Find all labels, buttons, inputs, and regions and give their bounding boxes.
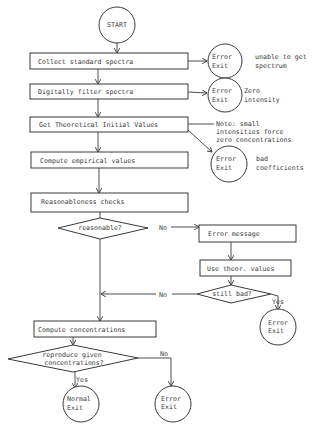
decision-reproduce-concentrations: reproduce given concentrations?: [8, 345, 138, 372]
decision-label: still bad?: [212, 290, 252, 298]
reproduce-yes-label: Yes: [76, 376, 88, 384]
exit-label-line2: Exit: [161, 403, 177, 411]
connector: [271, 294, 278, 296]
error-exit-2: Error Exit: [208, 78, 242, 112]
start-terminal: START: [99, 7, 135, 43]
error-exit-3: Error Exit: [211, 146, 247, 182]
step-compute-empirical-values: Compute empirical values: [31, 152, 188, 168]
step-label: Get Theoretical Initial Values: [39, 121, 158, 129]
note-line2: intensities force: [216, 128, 284, 136]
step-label: Collect standard spectra: [38, 58, 133, 66]
normal-exit: Normal Exit: [63, 386, 99, 422]
error-note-3b: coefficients: [256, 164, 304, 172]
step-error-message: Error message: [199, 225, 296, 242]
step-collect-standard-spectra: Collect standard spectra: [30, 53, 188, 69]
error-exit-5: Error Exit: [155, 386, 191, 422]
decision-still-bad: still bad?: [197, 285, 271, 303]
exit-label-line1: Error: [212, 87, 232, 95]
decision-label-line2: concentrations?: [44, 359, 104, 367]
error-note-2a: Zero: [244, 87, 260, 95]
exit-label-line2: Exit: [212, 62, 228, 70]
exit-label-line2: Exit: [67, 404, 83, 412]
error-exit-1: Error Exit: [208, 44, 242, 78]
flowchart: START Collect standard spectra Error Exi…: [0, 0, 323, 431]
step-use-theor-values: Use theor. values: [200, 260, 291, 276]
decision-label-line1: reproduce given: [42, 351, 102, 359]
start-label: START: [107, 21, 127, 29]
step-label: Digitally filter spectra: [38, 88, 133, 96]
note-line1: Note: small: [216, 120, 260, 128]
exit-label-line1: Error: [212, 53, 232, 61]
exit-label-line1: Error: [161, 395, 181, 403]
reasonable-no-label: No: [159, 224, 167, 232]
step-label: Reasonableness checks: [41, 198, 124, 206]
exit-label-line2: Exit: [216, 164, 232, 172]
step-label: Compute empirical values: [40, 157, 135, 165]
step-label: Compute concentrations: [38, 326, 125, 334]
step-compute-concentrations: Compute concentrations: [34, 321, 156, 337]
step-reasonableness-checks: Reasonableness checks: [31, 193, 188, 212]
exit-label-line1: Error: [268, 319, 288, 327]
step-label: Use theor. values: [207, 265, 275, 273]
error-note-3a: bad: [256, 155, 268, 163]
exit-label-line2: Exit: [212, 96, 228, 104]
error-note-2b: intensity: [244, 96, 280, 104]
reproduce-no-label: No: [160, 350, 168, 358]
decision-label: reasonable?: [78, 224, 122, 232]
exit-label-line2: Exit: [268, 327, 284, 335]
step-get-theoretical-initial-values: Get Theoretical Initial Values: [30, 117, 188, 132]
step-label: Error message: [208, 230, 260, 238]
exit-label-line1: Error: [216, 155, 236, 163]
connector: [188, 130, 212, 152]
connector: [188, 92, 207, 93]
exit-label-line1: Normal: [67, 395, 91, 403]
error-note-1b: spectrum: [255, 62, 287, 70]
error-exit-4: Error Exit: [260, 309, 296, 345]
still-bad-no-label: No: [159, 291, 167, 299]
error-note-1a: unable to get: [255, 53, 307, 61]
note-line3: zero concentrations: [216, 136, 291, 144]
decision-reasonable: reasonable?: [58, 218, 148, 239]
step-digitally-filter-spectra: Digitally filter spectra: [30, 84, 188, 99]
